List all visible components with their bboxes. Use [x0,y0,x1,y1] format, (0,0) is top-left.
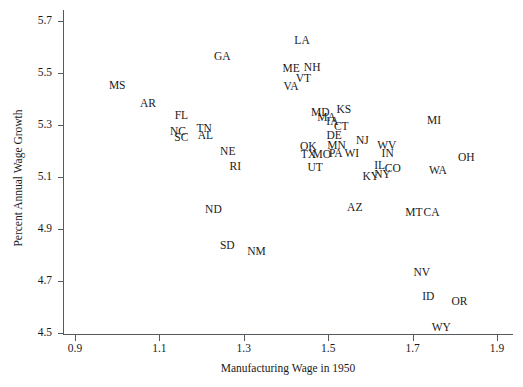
y-axis-tick-label: 5.5 [24,67,52,79]
data-point-label: MI [427,115,441,127]
data-point-label: CA [424,207,440,219]
x-axis-tick-label: 1.7 [393,343,433,355]
data-point-label: VA [283,81,298,93]
y-axis-line [63,10,64,335]
y-axis-tick-label: 5.1 [24,171,52,183]
y-axis-tick-label: 5.3 [24,119,52,131]
y-axis-tick-mark [58,229,64,230]
data-point-label: NV [414,267,431,279]
y-axis-tick-group: 5.75.55.35.14.94.74.5 [22,0,52,387]
data-point-label: WA [429,165,447,177]
y-axis-tick-mark [58,333,64,334]
y-axis-tick-label: 5.7 [24,15,52,27]
y-axis-title: Percent Annual Wage Growth [12,98,24,258]
y-axis-tick-mark [58,21,64,22]
data-point-label: LA [294,35,309,47]
data-point-label: MS [109,80,126,92]
data-point-label: NE [220,146,235,158]
y-axis-tick-mark [58,281,64,282]
data-point-label: OR [451,296,467,308]
data-point-label: MT [405,207,422,219]
y-axis-tick-label: 4.5 [24,327,52,339]
x-axis-title: Manufacturing Wage in 1950 [63,362,513,374]
x-axis-tick-label: 1.3 [224,343,264,355]
data-point-label: NM [247,246,266,258]
y-axis-tick-label: 4.7 [24,275,52,287]
data-point-label: GA [214,51,231,63]
x-axis-tick-mark [159,335,160,341]
data-point-label: OH [458,152,475,164]
x-axis-tick-label: 1.9 [477,343,517,355]
data-point-label: ID [422,291,434,303]
data-point-label: WY [432,322,451,334]
data-point-label: SD [220,240,235,252]
data-point-label: RI [230,161,242,173]
x-axis-line [63,334,513,335]
y-axis-tick-label: 4.9 [24,223,52,235]
x-axis-tick-label: 1.5 [308,343,348,355]
data-point-label: WI [344,148,359,160]
data-point-label: NY [374,170,391,182]
data-point-label: ND [205,204,222,216]
x-axis-tick-mark [244,335,245,341]
scatter-plot-figure: 5.75.55.35.14.94.74.5 LAGANHMEVTMSVAARKS… [0,0,523,387]
data-point-label: NJ [356,135,369,147]
x-axis-tick-mark [413,335,414,341]
x-axis-tick-label: 1.1 [139,343,179,355]
y-axis-tick-mark [58,73,64,74]
x-axis-tick-label: 0.9 [55,343,95,355]
data-point-label: AR [140,98,156,110]
y-axis-tick-mark [58,177,64,178]
data-point-label: FL [175,111,188,123]
y-axis-tick-mark [58,125,64,126]
x-axis-tick-mark [328,335,329,341]
x-axis-tick-mark [75,335,76,341]
data-point-label: AL [198,130,213,142]
data-point-label: KS [336,105,351,117]
data-point-label: UT [307,162,322,174]
data-point-label: AZ [347,202,362,214]
data-point-label: SC [174,132,188,144]
data-point-label: MO [313,149,332,161]
x-axis-tick-mark [497,335,498,341]
